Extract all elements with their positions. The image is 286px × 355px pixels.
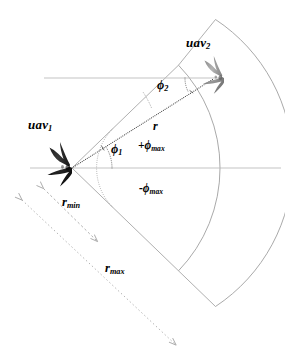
label-phi2-subscript: 2 (164, 84, 168, 93)
label-uav2-text: uav (186, 35, 206, 50)
angle-arc-phi2 (185, 78, 189, 92)
label-uav1-subscript: 1 (48, 123, 53, 133)
label-r-min: rmin (62, 196, 80, 211)
label-uav2: uav2 (186, 36, 211, 51)
label-r-min-subscript: min (67, 201, 80, 210)
label-phi-max-negative-symbol: ϕ (143, 182, 150, 194)
label-phi1: ϕ1 (111, 143, 122, 158)
sector-rmax (72, 20, 285, 307)
label-range-r-symbol: r (153, 119, 158, 133)
label-uav2-subscript: 2 (206, 41, 211, 51)
label-uav1-text: uav (28, 117, 48, 132)
angle-arc-phimax (143, 92, 151, 108)
label-range-r: r (153, 120, 158, 132)
label-r-max: rmax (105, 262, 125, 277)
sector-corner-lower (179, 271, 216, 307)
uav-geometry-diagram: uav1 uav2 ϕ1 ϕ2 r +ϕmax -ϕmax rmin rmax (0, 0, 285, 355)
label-r-max-subscript: max (110, 267, 125, 276)
label-phi-max-positive: +ϕmax (138, 140, 165, 153)
diagram-canvas (0, 0, 285, 355)
label-phi2: ϕ2 (157, 79, 168, 94)
dimension-arrow-rmax (22, 200, 176, 345)
angle-tick-phi2 (190, 90, 194, 93)
uav2-aircraft-icon (203, 56, 224, 94)
label-phi1-subscript: 1 (118, 148, 122, 157)
range-vector-r (72, 79, 214, 169)
uav1-aircraft-icon (48, 142, 73, 187)
label-phi-max-negative: -ϕmax (139, 183, 163, 196)
label-phi-max-positive-subscript: max (151, 144, 164, 153)
arc-rmax-outer (216, 20, 286, 307)
label-phi-max-negative-subscript: max (150, 187, 163, 196)
label-uav1: uav1 (28, 118, 53, 133)
